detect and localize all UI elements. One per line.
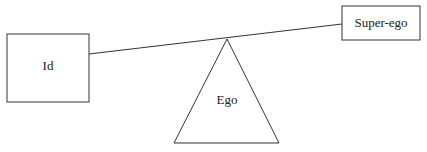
ego-triangle: Ego	[174, 39, 279, 143]
superego-label: Super-ego	[354, 15, 407, 30]
superego-box: Super-ego	[342, 6, 420, 40]
psyche-balance-diagram: Id Super-ego Ego	[0, 0, 427, 152]
ego-label: Ego	[217, 92, 238, 107]
id-box: Id	[7, 34, 89, 102]
balance-beam	[89, 24, 342, 54]
id-label: Id	[43, 58, 54, 73]
